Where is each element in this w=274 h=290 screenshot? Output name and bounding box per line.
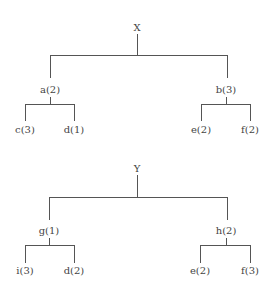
node-f: f(2) xyxy=(241,124,259,135)
node-d2: d(2) xyxy=(64,265,85,276)
tree-diagram: X a(2) b(3) c(3) d(1) e(2) f(2) Y g(1) h… xyxy=(0,0,274,290)
node-a: a(2) xyxy=(40,84,60,95)
node-e: e(2) xyxy=(191,124,211,135)
node-g: g(1) xyxy=(39,225,60,236)
tree-diagram-canvas: X a(2) b(3) c(3) d(1) e(2) f(2) Y g(1) h… xyxy=(0,0,274,290)
tree-x: X a(2) b(3) c(3) d(1) e(2) f(2) xyxy=(15,22,259,135)
node-c: c(3) xyxy=(15,124,35,135)
node-h: h(2) xyxy=(216,225,237,236)
node-root-x: X xyxy=(133,22,141,33)
node-f2: f(3) xyxy=(241,265,259,276)
tree-y: Y g(1) h(2) i(3) d(2) e(2) f(3) xyxy=(16,163,259,276)
node-d: d(1) xyxy=(64,124,85,135)
node-e2: e(2) xyxy=(190,265,210,276)
node-root-y: Y xyxy=(133,163,141,174)
node-i: i(3) xyxy=(16,265,33,276)
node-b: b(3) xyxy=(216,84,237,95)
